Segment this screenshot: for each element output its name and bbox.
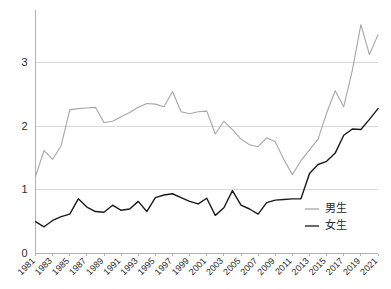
x-axis-tick-label: 2007: [238, 256, 259, 277]
x-axis-tick-label: 2011: [273, 256, 294, 277]
y-axis-tick-label: 0: [21, 247, 27, 259]
data-series-group: [36, 25, 379, 227]
chart-canvas: 0123 19811983198519871989199119931995199…: [0, 0, 391, 289]
x-axis-tick-label: 2009: [255, 256, 276, 277]
y-axis-tick-label: 1: [21, 183, 27, 195]
x-axis-tick-label: 1997: [153, 256, 174, 277]
line-chart: 0123 19811983198519871989199119931995199…: [0, 0, 391, 289]
x-axis-tick-labels: 1981198319851987198919911993199519971999…: [16, 256, 380, 277]
x-axis-tick-label: 1991: [101, 256, 122, 277]
x-axis-tick-label: 1995: [136, 256, 157, 277]
x-axis-tick-label: 1989: [84, 256, 105, 277]
x-axis-tick-label: 1987: [67, 256, 88, 277]
legend-label-male[interactable]: 男生: [325, 201, 347, 214]
x-axis-tick-label: 2005: [221, 256, 242, 277]
legend-label-female[interactable]: 女生: [325, 218, 347, 231]
chart-legend: 男生女生: [305, 201, 347, 231]
x-axis-tick-label: 1999: [170, 256, 191, 277]
x-axis-tick-label: 2021: [358, 256, 379, 277]
y-axis-tick-labels: 0123: [21, 56, 27, 259]
x-axis-tick-label: 2001: [187, 256, 208, 277]
x-axis-tick-label: 2017: [324, 256, 345, 277]
x-axis-tick-label: 2013: [290, 256, 311, 277]
x-axis-tick-label: 2019: [341, 256, 362, 277]
y-axis-tick-label: 3: [21, 56, 27, 68]
x-axis-tick-label: 1985: [50, 256, 71, 277]
y-axis-tick-label: 2: [21, 120, 27, 132]
x-axis-tick-label: 1993: [118, 256, 139, 277]
x-axis-tick-label: 2015: [307, 256, 328, 277]
x-axis-tick-label: 2003: [204, 256, 225, 277]
x-axis-tick-label: 1981: [16, 256, 37, 277]
series-line-male: [36, 25, 379, 177]
x-axis-tick-label: 1983: [33, 256, 54, 277]
